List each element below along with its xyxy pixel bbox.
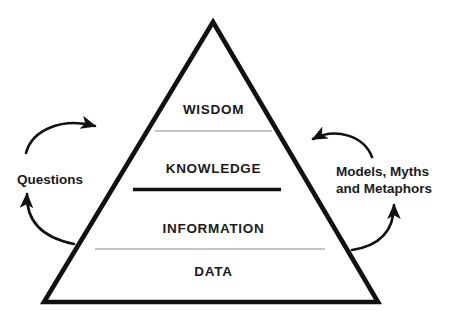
tier-label-information: INFORMATION	[0, 222, 427, 236]
annotation-label-questions: Questions	[17, 171, 83, 188]
tier-label-data: DATA	[0, 265, 427, 279]
annotation-line: Models, Myths	[336, 163, 432, 180]
annotation-label-models-myths-metaphors: Models, Myths and Metaphors	[336, 163, 432, 198]
curved-arrow-icon-top-right	[313, 134, 372, 157]
tier-label-wisdom: WISDOM	[0, 103, 427, 117]
annotation-line: Questions	[17, 171, 83, 188]
annotation-line: and Metaphors	[336, 180, 432, 197]
diagram-canvas: WISDOM KNOWLEDGE INFORMATION DATA Questi…	[0, 0, 460, 322]
curved-arrow-icon-top-left	[26, 123, 95, 153]
curved-arrow-icon-bottom-left	[27, 194, 74, 244]
